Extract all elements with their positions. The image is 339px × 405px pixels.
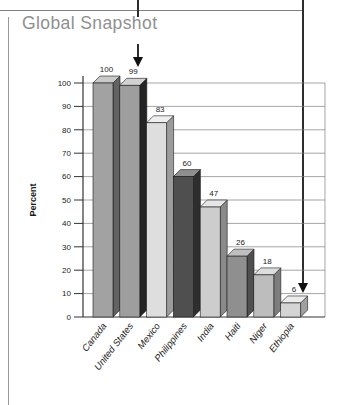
y-tick-label: 80 <box>62 126 71 135</box>
category-label: Haiti <box>222 320 243 342</box>
bar-front <box>147 123 167 317</box>
y-tick-label: 50 <box>62 196 71 205</box>
bar-value-label: 83 <box>156 105 165 114</box>
bar-value-label: 99 <box>129 67 138 76</box>
category-label: Ethiopia <box>266 320 296 354</box>
bar-front <box>173 177 193 317</box>
bar-side <box>247 249 254 317</box>
y-tick-label: 60 <box>62 172 71 181</box>
y-axis-title: Percent <box>28 183 38 216</box>
category-label: Mexico <box>135 320 162 350</box>
bar-value-label: 26 <box>236 238 245 247</box>
y-tick-label: 90 <box>62 102 71 111</box>
y-tick-label: 10 <box>62 289 71 298</box>
bar-chart: 0102030405060708090100100Canada99United … <box>0 0 339 405</box>
bar-side <box>140 78 147 317</box>
bar-value-label: 60 <box>182 159 191 168</box>
bar-value-label: 6 <box>292 285 297 294</box>
bar-front <box>200 207 220 317</box>
bar-front <box>254 275 274 317</box>
y-tick-label: 20 <box>62 266 71 275</box>
bar-front <box>227 256 247 317</box>
bar-front <box>281 303 301 317</box>
bar-side <box>274 268 281 317</box>
bar-side <box>167 116 174 317</box>
bar-value-label: 100 <box>100 65 114 74</box>
y-tick-label: 0 <box>67 313 72 322</box>
y-tick-label: 30 <box>62 243 71 252</box>
category-label: Niger <box>247 320 270 345</box>
y-tick-label: 70 <box>62 149 71 158</box>
y-tick-label: 40 <box>62 219 71 228</box>
bar-front <box>93 83 113 317</box>
bar-side <box>193 170 200 317</box>
category-label: India <box>194 320 215 343</box>
y-tick-label: 100 <box>58 79 72 88</box>
bar-value-label: 18 <box>263 257 272 266</box>
bar-side <box>220 200 227 317</box>
bar-side <box>113 76 120 317</box>
bar-front <box>120 85 140 317</box>
bar-value-label: 47 <box>209 189 218 198</box>
